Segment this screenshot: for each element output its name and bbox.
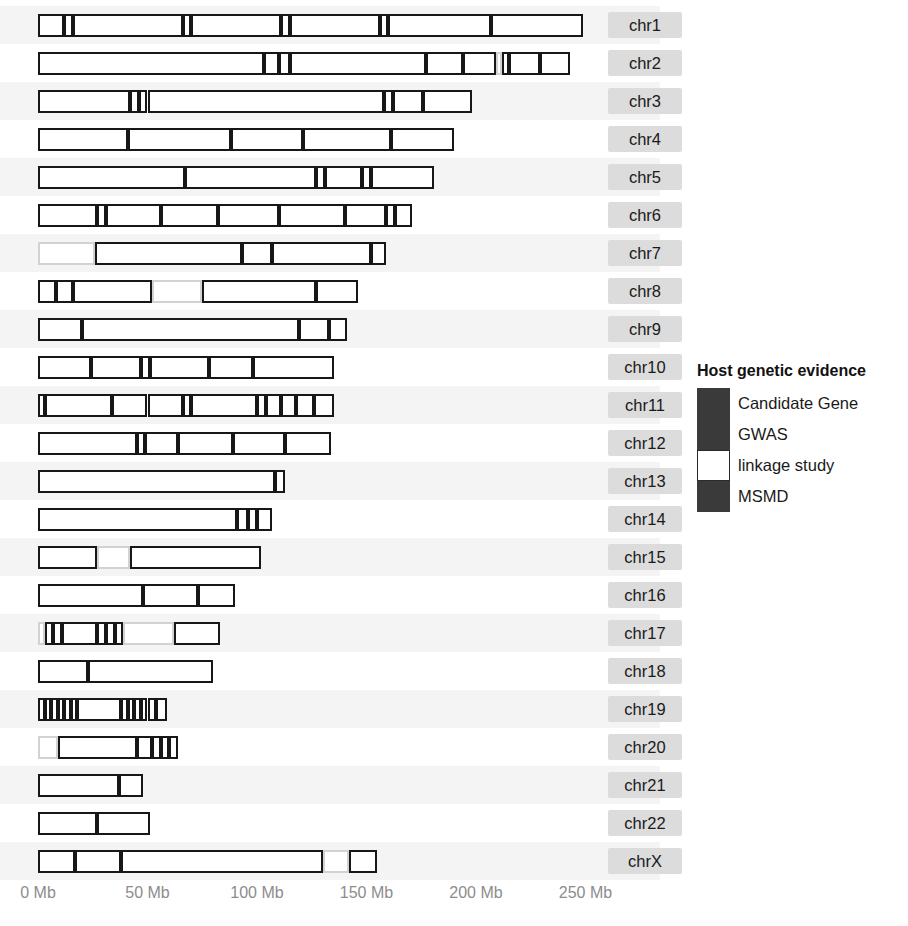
chromosome-segment[interactable] (128, 128, 231, 151)
chromosome-bar[interactable] (38, 736, 178, 759)
chromosome-segment[interactable] (97, 812, 150, 835)
chromosome-segment[interactable] (198, 584, 235, 607)
chromosome-segment[interactable] (463, 52, 496, 75)
chromosome-segment[interactable] (253, 356, 334, 379)
chromosome-segment[interactable] (88, 660, 213, 683)
chromosome-segment[interactable] (45, 394, 113, 417)
chromosome-segment[interactable] (148, 90, 385, 113)
chromosome-segment[interactable] (38, 850, 75, 873)
chromosome-bar[interactable] (38, 698, 167, 721)
chromosome-segment[interactable] (281, 394, 296, 417)
chromosome-segment[interactable] (169, 736, 178, 759)
chromosome-segment[interactable] (237, 508, 248, 531)
chromosome-segment[interactable] (423, 90, 471, 113)
chromosome-segment[interactable] (97, 622, 106, 645)
chromosome-segment[interactable] (491, 14, 583, 37)
chromosome-bar[interactable] (38, 546, 261, 569)
chromosome-bar[interactable] (38, 14, 583, 37)
chromosome-bar[interactable] (38, 204, 412, 227)
chromosome-segment[interactable] (62, 622, 97, 645)
chromosome-segment[interactable] (296, 394, 314, 417)
chromosome-segment[interactable] (38, 280, 56, 303)
chromosome-segment[interactable] (152, 280, 202, 303)
chromosome-bar[interactable] (38, 660, 213, 683)
chromosome-segment[interactable] (325, 166, 362, 189)
chromosome-segment[interactable] (316, 166, 325, 189)
chromosome-segment[interactable] (393, 90, 424, 113)
chromosome-segment[interactable] (233, 432, 286, 455)
chromosome-segment[interactable] (95, 242, 242, 265)
chromosome-segment[interactable] (242, 242, 273, 265)
chromosome-bar[interactable] (38, 52, 570, 75)
chromosome-segment[interactable] (174, 622, 220, 645)
chromosome-segment[interactable] (82, 318, 299, 341)
chromosome-bar[interactable] (38, 318, 347, 341)
chromosome-bar[interactable] (38, 508, 272, 531)
chromosome-bar[interactable] (38, 622, 220, 645)
chromosome-segment[interactable] (123, 622, 173, 645)
chromosome-bar[interactable] (38, 850, 377, 873)
chromosome-segment[interactable] (38, 356, 91, 379)
chromosome-segment[interactable] (128, 698, 135, 721)
chromosome-segment[interactable] (191, 394, 257, 417)
legend-item-msmd[interactable]: MSMD (697, 481, 902, 512)
chromosome-segment[interactable] (45, 622, 54, 645)
chromosome-bar[interactable] (38, 90, 472, 113)
chromosome-segment[interactable] (183, 394, 192, 417)
chromosome-segment[interactable] (38, 660, 88, 683)
chromosome-segment[interactable] (156, 698, 167, 721)
chromosome-segment[interactable] (178, 432, 233, 455)
chromosome-segment[interactable] (141, 356, 150, 379)
chromosome-segment[interactable] (426, 52, 463, 75)
chromosome-segment[interactable] (266, 394, 281, 417)
chromosome-segment[interactable] (73, 280, 152, 303)
chromosome-segment[interactable] (161, 736, 170, 759)
chromosome-bar[interactable] (38, 812, 150, 835)
chromosome-segment[interactable] (248, 508, 257, 531)
chromosome-segment[interactable] (371, 166, 435, 189)
chromosome-segment[interactable] (38, 508, 237, 531)
chromosome-segment[interactable] (329, 318, 347, 341)
chromosome-bar[interactable] (38, 356, 334, 379)
chromosome-segment[interactable] (316, 280, 358, 303)
chromosome-segment[interactable] (279, 52, 290, 75)
chromosome-segment[interactable] (64, 698, 71, 721)
chromosome-segment[interactable] (145, 432, 178, 455)
chromosome-segment[interactable] (121, 850, 322, 873)
chromosome-segment[interactable] (395, 204, 413, 227)
chromosome-segment[interactable] (97, 204, 106, 227)
chromosome-segment[interactable] (231, 128, 303, 151)
chromosome-segment[interactable] (38, 128, 128, 151)
chromosome-segment[interactable] (106, 204, 161, 227)
chromosome-segment[interactable] (58, 736, 137, 759)
chromosome-segment[interactable] (38, 166, 185, 189)
chromosome-bar[interactable] (38, 166, 434, 189)
chromosome-segment[interactable] (152, 736, 161, 759)
chromosome-segment[interactable] (509, 52, 540, 75)
chromosome-bar[interactable] (38, 242, 386, 265)
legend-item-candidate_gene[interactable]: Candidate Gene (697, 388, 902, 419)
chromosome-segment[interactable] (202, 280, 316, 303)
chromosome-segment[interactable] (38, 318, 82, 341)
chromosome-segment[interactable] (148, 394, 183, 417)
chromosome-segment[interactable] (218, 204, 279, 227)
chromosome-segment[interactable] (38, 584, 143, 607)
chromosome-segment[interactable] (56, 280, 74, 303)
chromosome-segment[interactable] (112, 394, 147, 417)
chromosome-bar[interactable] (38, 774, 143, 797)
chromosome-segment[interactable] (185, 166, 316, 189)
legend-item-gwas[interactable]: GWAS (697, 419, 902, 450)
chromosome-segment[interactable] (349, 850, 377, 873)
chromosome-segment[interactable] (130, 546, 261, 569)
chromosome-segment[interactable] (285, 432, 331, 455)
chromosome-segment[interactable] (38, 736, 58, 759)
chromosome-segment[interactable] (64, 14, 73, 37)
chromosome-bar[interactable] (38, 584, 235, 607)
chromosome-segment[interactable] (279, 204, 345, 227)
chromosome-segment[interactable] (209, 356, 253, 379)
chromosome-segment[interactable] (53, 622, 62, 645)
legend-item-linkage_study[interactable]: linkage study (697, 450, 902, 481)
chromosome-segment[interactable] (540, 52, 571, 75)
chromosome-segment[interactable] (323, 850, 349, 873)
chromosome-bar[interactable] (38, 280, 358, 303)
